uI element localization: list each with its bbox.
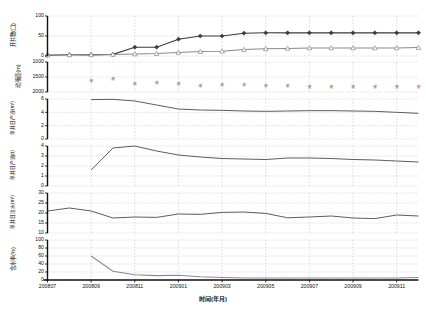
chart-panel-3: 01234单井日产油(t): [0, 146, 426, 186]
x-tick-label: 200907: [292, 283, 326, 289]
y-tick-label: 4: [41, 143, 44, 148]
x-tick-label: 200911: [380, 283, 414, 289]
y-tick-label: 3: [41, 153, 44, 158]
data-point-diamond-filled: [242, 31, 246, 35]
data-point-diamond-filled: [133, 45, 137, 49]
y-tick-label: 4: [41, 110, 44, 115]
y-tick-label: 1: [41, 173, 44, 178]
data-point-asterisk: ✳: [307, 83, 313, 90]
series-line-1: [48, 48, 419, 56]
chart-panel-0: 050100开井数(口): [0, 16, 426, 56]
data-point-asterisk: ✳: [219, 81, 225, 88]
data-point-asterisk: ✳: [328, 83, 334, 90]
series-line-0: [91, 146, 418, 170]
y-tick-label: 2: [41, 163, 44, 168]
y-tick-label: 80: [38, 245, 44, 250]
plot-area-5: [0, 240, 426, 280]
x-tick-label: 200809: [74, 283, 108, 289]
y-axis-label-0: 开井数(口): [10, 13, 16, 57]
data-point-asterisk: ✳: [88, 77, 94, 84]
data-point-diamond-filled: [395, 31, 399, 35]
x-tick-label: 200807: [31, 283, 65, 289]
data-point-asterisk: ✳: [110, 75, 116, 82]
data-point-asterisk: ✳: [132, 80, 138, 87]
data-point-asterisk: ✳: [241, 81, 247, 88]
data-point-asterisk: ✳: [350, 83, 356, 90]
data-point-diamond-filled: [220, 34, 224, 38]
y-tick-label: 1000: [32, 59, 44, 64]
y-axis-label-2: 单井日产液(m³): [10, 96, 16, 140]
y-tick-label: 10: [38, 230, 44, 235]
y-tick-label: 30: [38, 190, 44, 195]
y-tick-label: 25: [38, 200, 44, 205]
series-line-0: [91, 99, 418, 113]
y-axis-label-5: 含水率(%): [10, 237, 16, 281]
plot-area-4: [0, 193, 426, 233]
y-tick-label: 60: [38, 253, 44, 258]
data-point-diamond-filled: [307, 31, 311, 35]
figure-root: 050100开井数(口)✳✳✳✳✳✳✳✳✳✳✳✳✳✳✳✳100015002000…: [0, 0, 426, 312]
y-axis-label-1: 动液面(m): [15, 54, 21, 98]
data-point-diamond-filled: [155, 45, 159, 49]
data-point-diamond-filled: [351, 31, 355, 35]
y-tick-label: 100: [35, 13, 44, 18]
y-tick-label: 0: [41, 183, 44, 188]
data-point-asterisk: ✳: [154, 79, 160, 86]
chart-panel-5: 020406080100含水率(%): [0, 240, 426, 280]
data-point-diamond-filled: [285, 31, 289, 35]
x-tick-label: 200811: [118, 283, 152, 289]
data-point-diamond-filled: [373, 31, 377, 35]
x-tick-label: 200901: [161, 283, 195, 289]
plot-area-0: [0, 16, 426, 56]
plot-area-2: [0, 99, 426, 139]
data-point-asterisk: ✳: [285, 82, 291, 89]
y-axis-label-3: 单井日产油(t): [10, 143, 16, 187]
y-tick-label: 20: [38, 210, 44, 215]
plot-area-1: ✳✳✳✳✳✳✳✳✳✳✳✳✳✳✳✳: [0, 62, 426, 92]
chart-panel-4: 1015202530单井日注水(m³): [0, 193, 426, 233]
data-point-diamond-filled: [198, 34, 202, 38]
chart-panel-1: ✳✳✳✳✳✳✳✳✳✳✳✳✳✳✳✳100015002000动液面(m): [0, 62, 426, 92]
data-point-asterisk: ✳: [176, 80, 182, 87]
x-tick-label: 200909: [336, 283, 370, 289]
y-tick-label: 15: [38, 220, 44, 225]
y-tick-label: 20: [38, 269, 44, 274]
y-tick-label: 0: [41, 136, 44, 141]
data-point-diamond-filled: [176, 37, 180, 41]
data-point-asterisk: ✳: [263, 82, 269, 89]
y-axis-label-4: 单井日注水(m³): [10, 190, 16, 234]
series-line-0: [91, 256, 418, 278]
y-tick-label: 6: [41, 96, 44, 101]
y-tick-label: 100: [35, 237, 44, 242]
data-point-asterisk: ✳: [416, 83, 422, 90]
data-point-asterisk: ✳: [372, 83, 378, 90]
y-tick-label: 0: [41, 277, 44, 282]
y-tick-label: 50: [38, 33, 44, 38]
x-tick-label: 200905: [249, 283, 283, 289]
y-tick-label: 2000: [32, 89, 44, 94]
x-tick-label: 200903: [205, 283, 239, 289]
chart-panel-2: 0246单井日产液(m³): [0, 99, 426, 139]
y-tick-label: 40: [38, 261, 44, 266]
plot-area-3: [0, 146, 426, 186]
data-point-diamond-filled: [329, 31, 333, 35]
data-point-diamond-filled: [264, 31, 268, 35]
x-axis-label: 时间(年月): [0, 294, 426, 303]
series-line-0: [48, 208, 419, 219]
data-point-asterisk: ✳: [394, 83, 400, 90]
y-tick-label: 2: [41, 123, 44, 128]
data-point-asterisk: ✳: [198, 82, 204, 89]
y-tick-label: 1500: [32, 74, 44, 79]
data-point-diamond-filled: [416, 31, 420, 35]
